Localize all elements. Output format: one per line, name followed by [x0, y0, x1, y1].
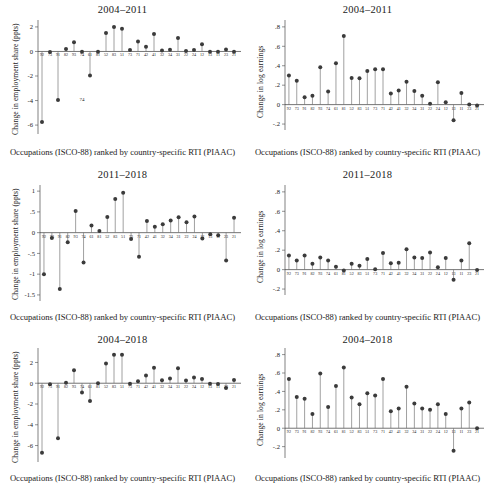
svg-text:81: 81	[96, 52, 100, 57]
x-axis-caption: Occupations (ISCO-88) ranked by country-…	[0, 312, 245, 322]
svg-text:.6: .6	[275, 208, 281, 215]
svg-text:74: 74	[82, 234, 86, 239]
svg-text:-4: -4	[28, 97, 34, 104]
svg-text:.2: .2	[275, 246, 280, 253]
svg-text:42: 42	[145, 234, 149, 239]
svg-text:81: 81	[96, 384, 100, 389]
svg-text:23: 23	[467, 271, 471, 276]
svg-text:12: 12	[200, 52, 204, 57]
svg-text:22: 22	[428, 271, 432, 276]
svg-text:41: 41	[153, 234, 157, 239]
svg-text:82: 82	[64, 52, 68, 57]
svg-text:24: 24	[436, 271, 440, 276]
svg-text:11: 11	[459, 429, 463, 434]
svg-text:71: 71	[136, 52, 140, 57]
svg-text:93: 93	[318, 106, 322, 111]
svg-text:92: 92	[287, 429, 291, 434]
svg-text:91: 91	[58, 234, 62, 239]
svg-text:22: 22	[428, 106, 432, 111]
svg-text:73: 73	[373, 271, 377, 276]
svg-text:92: 92	[42, 234, 46, 239]
svg-text:52: 52	[105, 234, 109, 239]
svg-text:61: 61	[334, 271, 338, 276]
svg-text:12: 12	[200, 234, 204, 239]
svg-text:23: 23	[467, 106, 471, 111]
x-axis-caption: Occupations (ISCO-88) ranked by country-…	[245, 473, 490, 483]
svg-text:83: 83	[112, 384, 116, 389]
svg-text:-2: -2	[28, 400, 34, 407]
svg-text:34: 34	[168, 52, 172, 57]
svg-text:34: 34	[168, 384, 172, 389]
svg-text:21: 21	[475, 106, 479, 111]
svg-text:32: 32	[160, 384, 164, 389]
svg-text:21: 21	[475, 429, 479, 434]
svg-text:71: 71	[137, 234, 141, 239]
svg-text:21: 21	[232, 52, 236, 57]
svg-text:52: 52	[350, 106, 354, 111]
svg-text:73: 73	[295, 106, 299, 111]
svg-text:23: 23	[224, 234, 228, 239]
svg-text:61: 61	[89, 234, 93, 239]
svg-text:34: 34	[169, 234, 173, 239]
svg-text:51: 51	[365, 106, 369, 111]
svg-text:12: 12	[200, 384, 204, 389]
svg-text:91: 91	[56, 52, 60, 57]
svg-text:81: 81	[342, 271, 346, 276]
svg-text:0: 0	[30, 380, 34, 387]
svg-text:82: 82	[310, 106, 314, 111]
svg-text:22: 22	[184, 52, 188, 57]
plot-earn-2004-2011: .8.6.4.20-.29273918293746181528351737142…	[245, 0, 490, 165]
svg-text:-.2: -.2	[273, 120, 280, 127]
svg-text:71: 71	[381, 271, 385, 276]
panel-emp-2004-2011: 2004–2011 Change in employment share (pp…	[0, 0, 245, 165]
svg-text:32: 32	[160, 52, 164, 57]
svg-text:0: 0	[32, 229, 36, 236]
svg-text:21: 21	[232, 384, 236, 389]
svg-text:83: 83	[112, 52, 116, 57]
svg-text:91: 91	[303, 106, 307, 111]
svg-text:61: 61	[88, 52, 92, 57]
svg-text:32: 32	[404, 429, 408, 434]
svg-text:41: 41	[152, 52, 156, 57]
panel-emp-2004-2018: 2004–2018 Change in employment share (pp…	[0, 330, 245, 491]
svg-text:73: 73	[373, 106, 377, 111]
svg-text:.8: .8	[275, 23, 281, 30]
svg-text:91: 91	[303, 429, 307, 434]
svg-text:52: 52	[350, 429, 354, 434]
svg-text:21: 21	[232, 234, 236, 239]
svg-text:52: 52	[350, 271, 354, 276]
svg-text:31: 31	[177, 234, 181, 239]
svg-text:41: 41	[397, 106, 401, 111]
svg-text:93: 93	[72, 384, 76, 389]
svg-text:-.5: -.5	[28, 250, 36, 257]
svg-text:.4: .4	[275, 227, 281, 234]
svg-text:71: 71	[381, 106, 385, 111]
svg-text:83: 83	[357, 429, 361, 434]
svg-text:41: 41	[397, 429, 401, 434]
svg-text:0: 0	[277, 101, 281, 108]
svg-text:81: 81	[342, 429, 346, 434]
svg-text:1: 1	[32, 187, 35, 194]
svg-text:61: 61	[334, 429, 338, 434]
svg-text:73: 73	[295, 271, 299, 276]
svg-text:51: 51	[120, 384, 124, 389]
svg-text:11: 11	[216, 384, 220, 389]
svg-text:13: 13	[208, 234, 212, 239]
svg-text:-.2: -.2	[273, 285, 280, 292]
svg-text:31: 31	[176, 52, 180, 57]
svg-text:34: 34	[412, 106, 416, 111]
svg-text:22: 22	[428, 429, 432, 434]
svg-text:-6: -6	[28, 442, 34, 449]
svg-text:-1: -1	[30, 270, 36, 277]
svg-text:11: 11	[216, 52, 220, 57]
svg-text:74: 74	[80, 384, 84, 389]
svg-text:.8: .8	[275, 188, 281, 195]
panel-emp-2011-2018: 2011–2018 Change in employment share (pp…	[0, 165, 245, 330]
svg-text:92: 92	[287, 106, 291, 111]
svg-text:51: 51	[121, 234, 125, 239]
svg-text:82: 82	[64, 384, 68, 389]
svg-text:52: 52	[104, 52, 108, 57]
svg-text:42: 42	[144, 52, 148, 57]
svg-text:11: 11	[459, 106, 463, 111]
svg-text:12: 12	[444, 106, 448, 111]
